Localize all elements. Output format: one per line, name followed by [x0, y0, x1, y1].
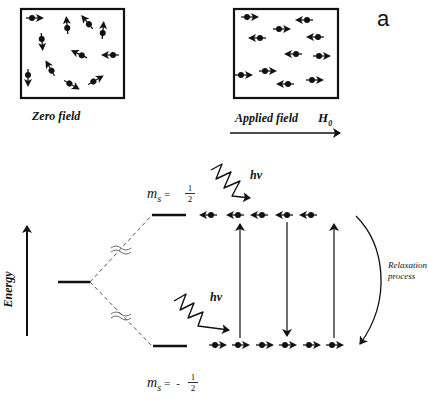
equals-sign: =	[164, 377, 170, 389]
spin-arrow-icon	[276, 80, 294, 88]
fraction-denominator: 2	[188, 383, 198, 393]
panel-label: a	[377, 6, 389, 32]
spin-arrow-icon	[313, 52, 331, 60]
spin-arrow-icon	[295, 16, 313, 24]
spin-arrow-icon	[86, 72, 106, 88]
relaxation-label-line2: process	[388, 271, 415, 281]
spin-arrow-icon	[306, 33, 324, 41]
spin-arrow-icon	[37, 33, 47, 52]
zero-field-caption: Zero field	[32, 109, 80, 124]
spin-arrow-icon	[209, 341, 227, 349]
upper-level-label: ms=	[147, 186, 173, 204]
fraction-numerator: 1	[185, 183, 195, 194]
spin-arrow-icon	[273, 25, 291, 33]
ms-subscript: s	[157, 382, 161, 393]
equals-sign: =	[164, 188, 170, 200]
spin-arrow-icon	[62, 77, 82, 93]
relaxation-label: Relaxation process	[388, 260, 427, 282]
applied-field-caption: Applied field	[235, 111, 298, 126]
spin-arrow-icon	[42, 58, 58, 78]
lower-level-fraction: 1 2	[188, 372, 198, 393]
spin-arrow-icon	[26, 14, 44, 22]
energy-axis-label: Energy	[1, 272, 16, 308]
spin-arrow-icon	[24, 69, 32, 87]
relaxation-label-line1: Relaxation	[388, 260, 427, 270]
field-symbol-h: H	[318, 110, 328, 125]
spin-arrow-icon	[62, 16, 72, 35]
lower-level-spins	[209, 341, 344, 349]
upper-level-spins	[199, 211, 317, 219]
field-subscript: 0	[328, 119, 332, 128]
diagram-canvas	[0, 0, 429, 405]
fraction-numerator: 1	[188, 372, 198, 383]
spin-arrow-icon	[98, 21, 108, 40]
relaxation-curve-arrow	[356, 216, 381, 344]
spin-arrow-icon	[326, 341, 344, 349]
spin-arrow-icon	[78, 13, 96, 32]
photon-label-lower: hν	[210, 290, 222, 305]
fraction-denominator: 2	[185, 194, 195, 204]
spin-arrow-icon	[101, 51, 119, 59]
spin-arrow-icon	[284, 50, 302, 58]
spin-arrow-icon	[235, 71, 253, 79]
photon-label-upper: hν	[250, 168, 262, 183]
photon-wave-upper	[211, 164, 250, 198]
spin-arrow-icon	[306, 76, 324, 84]
applied-field-spins	[235, 13, 331, 88]
axis-break-lower	[111, 312, 131, 320]
epr-diagram: a Zero field Applied field H0 Energy ms=…	[0, 0, 429, 405]
spin-arrow-icon	[69, 47, 89, 62]
spin-arrow-icon	[199, 211, 217, 219]
ms-subscript: s	[157, 193, 161, 204]
spin-arrow-icon	[303, 341, 321, 349]
minus-sign: -	[176, 377, 180, 389]
upper-level-fraction: 1 2	[185, 183, 195, 204]
field-symbol: H0	[318, 110, 332, 128]
spin-arrow-icon	[248, 34, 266, 42]
spin-arrow-icon	[256, 341, 274, 349]
spin-arrow-icon	[241, 13, 259, 21]
spin-arrow-icon	[232, 341, 250, 349]
spin-arrow-icon	[250, 211, 268, 219]
lower-level-label: ms=-	[147, 375, 183, 393]
ms-symbol: m	[147, 186, 157, 201]
spin-arrow-icon	[259, 67, 277, 75]
axis-break-upper	[111, 246, 131, 254]
spin-arrow-icon	[275, 211, 293, 219]
ms-symbol: m	[147, 375, 157, 390]
spin-arrow-icon	[226, 211, 244, 219]
spin-arrow-icon	[299, 211, 317, 219]
spin-arrow-icon	[279, 341, 297, 349]
zero-field-spins	[24, 13, 119, 93]
